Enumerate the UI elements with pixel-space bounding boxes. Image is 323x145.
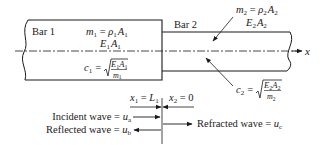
svg-text:m1 = ρ1A1: m1 = ρ1A1 (86, 26, 128, 39)
svg-text:E2A2: E2A2 (245, 17, 267, 30)
bar-2-stiffness: E2A2 (245, 17, 267, 30)
bar-2-wave-speed: c2= E2A2 m2 (236, 80, 282, 102)
bar-1-mass-equation: m1 = ρ1A1 (86, 26, 128, 39)
bar-junction-diagram: x Bar 1 m1 = ρ1A1 E1A1 c1= E1A1 m1 Bar 2… (0, 0, 323, 145)
x1-equals-L1: x1 = L1 (129, 92, 159, 105)
incident-wave: Incident wave = ua (52, 111, 160, 124)
refracted-wave: Refracted wave = uc (163, 118, 282, 131)
bar-2-outline (162, 32, 292, 71)
interface-dimension-marks (130, 98, 194, 144)
reflected-wave: Reflected wave = ub (46, 124, 161, 137)
svg-text:m1: m1 (113, 71, 122, 81)
svg-text:E2A2: E2A2 (263, 80, 280, 91)
svg-text:m2: m2 (267, 92, 276, 102)
bar-1-stiffness: E1A1 (99, 38, 121, 51)
svg-text:m2 = ρ2A2: m2 = ρ2A2 (236, 4, 278, 17)
svg-text:c2=: c2= (236, 84, 253, 97)
svg-text:Reflected wave = ub: Reflected wave = ub (46, 124, 131, 137)
bar-2-label: Bar 2 (174, 19, 197, 30)
bar-1-label: Bar 1 (32, 26, 55, 37)
svg-text:Refracted wave = uc: Refracted wave = uc (197, 118, 282, 131)
bar-2-property-leader-arrow (213, 17, 233, 41)
bar-2-mass-equation: m2 = ρ2A2 (236, 4, 278, 17)
bar-2-break-line (287, 32, 292, 71)
svg-text:c1=: c1= (84, 62, 101, 75)
bar-2-wave-speed-leader-arrow (206, 58, 233, 86)
interface-position-labels: x1 = L1 x2 = 0 (129, 92, 194, 105)
bar-1-wave-speed: c1= E1A1 m1 (84, 59, 128, 80)
svg-text:E1A1: E1A1 (110, 59, 127, 70)
x2-equals-0: x2 = 0 (168, 92, 194, 105)
svg-text:Incident wave = ua: Incident wave = ua (52, 111, 132, 124)
svg-text:E1A1: E1A1 (99, 38, 121, 51)
bar-1-break-line (22, 20, 28, 80)
x-axis-label: x (304, 45, 310, 57)
